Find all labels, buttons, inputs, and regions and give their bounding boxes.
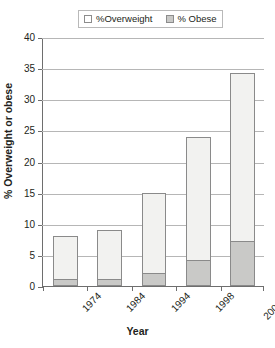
y-axis-tick	[38, 163, 42, 164]
bar-obese-segment	[231, 241, 254, 285]
bar-overweight-segment	[53, 236, 78, 286]
legend-item-obese: % Obese	[166, 14, 217, 24]
bar-slot	[230, 38, 255, 286]
chart-legend: %Overweight % Obese	[78, 10, 223, 28]
bar-slot	[186, 38, 211, 286]
x-axis-tick-label: 1998	[214, 291, 237, 314]
bar-slot	[142, 38, 167, 286]
plot-area: 0510152025303540	[42, 38, 264, 287]
y-axis-title: % Overweight or obese	[2, 31, 14, 251]
x-axis-tick-labels: 19741984199419982001–2	[42, 291, 264, 327]
bar-obese-segment	[187, 260, 210, 285]
x-axis-tick-label: 1974	[80, 291, 103, 314]
bar-overweight-segment	[186, 137, 211, 286]
y-axis-tick-label: 5	[29, 251, 35, 261]
bar-overweight-segment	[230, 73, 255, 286]
bar-obese-segment	[54, 279, 77, 285]
bar-obese-segment	[98, 279, 121, 285]
bar-slot	[97, 38, 122, 286]
y-axis-tick	[38, 225, 42, 226]
y-axis-tick-label: 25	[24, 126, 35, 136]
y-axis-tick-label: 10	[24, 220, 35, 230]
x-axis-tick-label: 1984	[125, 291, 148, 314]
bars-layer	[43, 38, 264, 286]
y-axis-tick-label: 30	[24, 95, 35, 105]
y-axis-tick-label: 15	[24, 189, 35, 199]
x-axis-line	[42, 286, 264, 287]
legend-swatch-overweight	[84, 15, 92, 23]
y-axis-tick	[38, 131, 42, 132]
y-axis-tick-label: 40	[24, 33, 35, 43]
bar-slot	[53, 38, 78, 286]
y-axis-tick-label: 0	[29, 282, 35, 292]
legend-item-overweight: %Overweight	[84, 14, 153, 24]
bar-overweight-segment	[97, 230, 122, 286]
bar-overweight-segment	[142, 193, 167, 286]
y-axis-tick	[38, 100, 42, 101]
y-axis-tick	[38, 194, 42, 195]
y-axis-tick	[38, 38, 42, 39]
x-axis-tick-label: 2001–2	[261, 291, 275, 322]
bar-obese-segment	[143, 273, 166, 285]
legend-swatch-obese	[166, 15, 174, 23]
y-axis-tick	[38, 256, 42, 257]
legend-label-obese: % Obese	[178, 14, 217, 24]
y-axis-tick-label: 20	[24, 158, 35, 168]
y-axis-tick-label: 35	[24, 64, 35, 74]
x-axis-tick-label: 1994	[169, 291, 192, 314]
x-axis-title: Year	[0, 325, 275, 337]
y-axis-tick	[38, 69, 42, 70]
y-axis-tick	[38, 287, 42, 288]
legend-label-overweight: %Overweight	[96, 14, 153, 24]
chart-container: %Overweight % Obese 0510152025303540 197…	[0, 0, 275, 348]
